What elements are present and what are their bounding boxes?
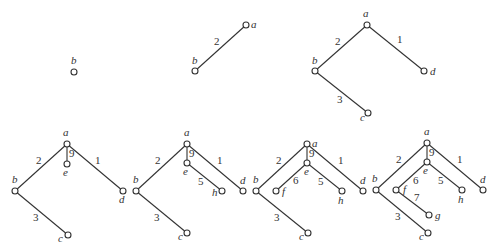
- node-label: c: [299, 230, 304, 242]
- node-label: e: [183, 165, 188, 177]
- node-b: [192, 68, 198, 74]
- node-label: e: [63, 166, 68, 178]
- edge-a-d: [67, 144, 123, 191]
- node-a: [424, 140, 430, 146]
- node-label: d: [430, 65, 436, 77]
- edge-weight-label: 5: [198, 175, 204, 187]
- edge-a-d: [427, 143, 483, 190]
- node-b: [373, 187, 379, 193]
- edge-e-h: [427, 162, 462, 190]
- panel-2: 2ab: [192, 18, 257, 74]
- node-c: [425, 230, 431, 236]
- panel-6: 921653aefhbdc: [253, 137, 366, 242]
- edge-weight-label: 3: [274, 211, 280, 223]
- node-label: c: [419, 230, 424, 242]
- edge-weight-label: 1: [217, 154, 223, 166]
- node-label: d: [480, 173, 486, 185]
- node-label: b: [133, 173, 139, 185]
- node-label: a: [312, 137, 318, 149]
- edge-b-c: [15, 191, 68, 235]
- edge-a-b: [376, 143, 427, 190]
- edge-a-d: [367, 25, 424, 71]
- node-label: a: [251, 18, 257, 30]
- node-b: [312, 68, 318, 74]
- panel-5: 92153aehbdc: [133, 126, 246, 242]
- node-c: [65, 232, 71, 238]
- node-c: [305, 230, 311, 236]
- edge-e-h: [307, 163, 342, 191]
- node-label: e: [423, 164, 428, 176]
- edge-b-c: [315, 71, 368, 113]
- panel-3: 213abdc: [312, 7, 436, 123]
- node-label: c: [360, 111, 365, 123]
- node-label: h: [458, 193, 464, 205]
- tree-construction-diagram: b2ab213abdc9213aebdc92153aehbdc921653aef…: [0, 0, 498, 252]
- edge-weight-label: 2: [155, 154, 161, 166]
- edge-weight-label: 1: [95, 154, 101, 166]
- node-b: [71, 69, 77, 75]
- node-d: [360, 188, 366, 194]
- edge-weight-label: 6: [293, 174, 299, 186]
- panel-1: b: [71, 54, 77, 75]
- node-label: d: [240, 174, 246, 186]
- node-label: h: [338, 194, 344, 206]
- edge-e-f: [276, 163, 307, 191]
- node-label: g: [435, 209, 441, 221]
- edge-a-b: [315, 25, 367, 71]
- edge-weight-label: 3: [154, 211, 160, 223]
- node-c: [184, 230, 190, 236]
- edge-weight-label: 1: [397, 33, 403, 45]
- edge-a-d: [187, 144, 243, 191]
- node-label: c: [178, 230, 183, 242]
- node-label: b: [253, 173, 259, 185]
- edge-a-d: [307, 144, 363, 191]
- edge-b-c: [376, 190, 428, 233]
- node-label: f: [403, 183, 408, 195]
- edge-weight-label: 3: [337, 93, 343, 105]
- edge-a-b: [195, 25, 246, 71]
- node-label: h: [212, 186, 218, 198]
- edge-b-c: [136, 191, 187, 233]
- edge-weight-label: 2: [276, 154, 282, 166]
- node-h: [219, 188, 225, 194]
- node-label: a: [63, 126, 69, 138]
- node-f: [273, 188, 279, 194]
- edge-weight-label: 1: [457, 153, 463, 165]
- node-a: [364, 22, 370, 28]
- edge-weight-label: 2: [36, 154, 42, 166]
- node-b: [12, 188, 18, 194]
- node-label: a: [424, 125, 430, 137]
- edge-weight-label: 2: [335, 35, 341, 47]
- edge-b-c: [256, 191, 308, 233]
- node-a: [184, 141, 190, 147]
- edge-a-b: [136, 144, 187, 191]
- node-a: [64, 141, 70, 147]
- edge-weight-label: 3: [395, 210, 401, 222]
- node-c: [365, 110, 371, 116]
- node-label: b: [312, 54, 318, 66]
- node-label: c: [58, 232, 63, 244]
- node-label: a: [363, 7, 369, 19]
- node-b: [253, 188, 259, 194]
- node-f: [393, 187, 399, 193]
- edge-weight-label: 5: [318, 175, 324, 187]
- node-label: e: [304, 165, 309, 177]
- edge-weight-label: 7: [414, 191, 420, 203]
- edge-weight-label: 3: [33, 211, 39, 223]
- edge-weight-label: 6: [413, 174, 419, 186]
- edge-weight-label: 1: [338, 154, 344, 166]
- edge-weight-label: 2: [214, 35, 220, 47]
- edge-weight-label: 2: [396, 153, 402, 165]
- node-label: b: [372, 172, 378, 184]
- edge-weight-label: 5: [438, 174, 444, 186]
- node-label: d: [360, 174, 366, 186]
- node-b: [133, 188, 139, 194]
- node-a: [243, 22, 249, 28]
- node-g: [426, 212, 432, 218]
- node-label: d: [119, 193, 125, 205]
- node-d: [240, 188, 246, 194]
- node-a: [304, 141, 310, 147]
- node-label: a: [184, 126, 190, 138]
- node-label: f: [282, 185, 287, 197]
- node-d: [480, 187, 486, 193]
